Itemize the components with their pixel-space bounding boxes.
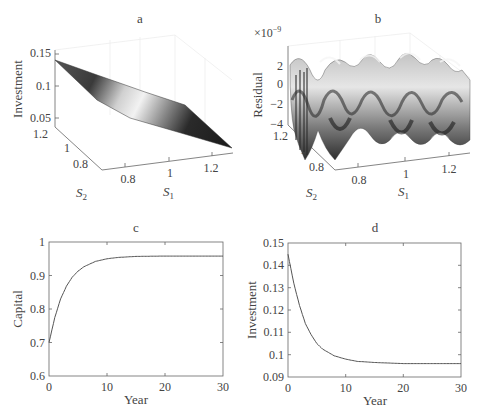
y-axis-label: Investment [244,281,259,339]
capital-line [49,256,223,342]
s1-axis-label: S1 [163,184,174,201]
x-axis-label: Year [124,392,149,407]
s1-axis-label: S1 [398,184,409,201]
s2-tick: 0.8 [309,160,324,174]
plot-frame [49,242,223,376]
x-tick: 10 [340,381,352,395]
z-multiplier: ×10−9 [254,25,281,40]
panel-b-title: b [375,11,382,26]
z-axis-label: Residual [250,72,265,118]
y-tick: 0.9 [30,269,45,283]
s1-tick: 0.8 [352,173,367,187]
z-tick: −2 [270,97,283,111]
z-tick: 0.15 [30,46,51,60]
s2-axis-label: S2 [306,185,317,202]
z-tick: 0.1 [36,79,51,93]
x-tick: 20 [159,380,171,394]
z-tick: 0 [277,77,283,91]
panel-a-title: a [137,11,143,26]
panel-c-title: c [133,220,139,235]
x-tick: 0 [46,380,52,394]
x-tick: 10 [101,380,113,394]
x-tick: 30 [455,381,467,395]
s1-tick: 1 [167,166,173,180]
y-axis-label: Capital [10,290,25,328]
y-tick: 0.11 [263,325,284,339]
panel-c: c 1 0.9 0.8 0.7 0.6 0 10 20 30 Capital Y… [10,220,229,407]
y-tick: 0.8 [30,302,45,316]
panel-d-title: d [372,220,379,235]
s1-tick: 1 [403,167,409,181]
y-tick: 0.12 [263,303,284,317]
s1-tick: 0.8 [121,172,136,186]
panel-d: d 0.15 0.14 0.13 0.12 0.11 0.1 0.09 0 10… [244,220,467,408]
x-tick: 20 [397,381,409,395]
investment-line [288,254,461,363]
residual-surface [290,53,470,160]
x-axis-label: Year [363,393,388,408]
x-tick: 30 [217,380,229,394]
y-tick: 0.09 [263,370,284,384]
y-tick: 0.7 [30,336,45,350]
panel-b-xticks [358,152,449,167]
s1-tick: 1.2 [442,162,457,176]
y-tick: 0.1 [269,348,284,362]
y-tick: 0.13 [263,281,284,295]
z-axis-label: Investment [10,60,25,118]
z-tick: 0.05 [30,111,51,125]
z-tick: 2 [277,59,283,73]
y-tick: 0.14 [263,258,284,272]
investment-surface [55,60,232,148]
panel-a: a 0.15 0.1 0.05 1.2 1 0.8 0.8 1 1.2 Inve… [10,11,233,202]
tick-marks [49,242,223,376]
s2-axis-label: S2 [76,185,87,202]
tick-marks [288,243,461,377]
panel-a-zticks [55,54,59,118]
s2-tick: 1.2 [33,127,48,141]
s2-tick: 1.2 [273,129,288,143]
panel-b: b ×10−9 2 0 −2 −4 1.2 1 0.8 0.8 1 1.2 Re… [250,11,470,202]
y-tick: 0.6 [30,369,45,383]
s2-tick: 1 [64,141,70,155]
plot-frame [288,243,461,377]
y-tick: 1 [39,235,45,249]
x-tick: 0 [285,381,291,395]
s1-tick: 1.2 [204,161,219,175]
panel-a-xticks [125,152,212,167]
y-tick: 0.15 [263,236,284,250]
s2-tick: 0.8 [73,157,88,171]
